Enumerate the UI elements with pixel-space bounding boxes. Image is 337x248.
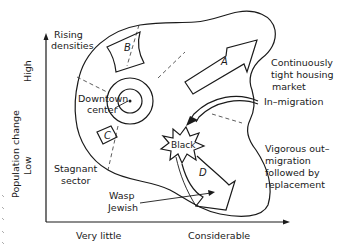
wasp-jewish-pointer xyxy=(140,193,211,203)
in-migration-label: In–migration xyxy=(264,96,323,107)
x-axis-high-label: Considerable xyxy=(188,230,250,241)
black-label: Black xyxy=(171,140,196,150)
sector-divider-northeast xyxy=(158,52,185,78)
sector-divider-west xyxy=(77,77,109,93)
y-axis-label: Population change xyxy=(10,110,21,198)
downtown-center-dot xyxy=(129,100,132,103)
tight-housing-label-1: Continuously xyxy=(271,57,333,68)
y-axis-high-label: High xyxy=(22,60,33,82)
wasp-label: Wasp xyxy=(109,190,135,201)
axes xyxy=(44,33,291,225)
urban-migration-diagram: Population change High Low Very little C… xyxy=(0,0,337,248)
region-d-label: D xyxy=(199,167,207,178)
rising-densities-label-2: densities xyxy=(51,40,94,51)
region-a-label: A xyxy=(220,56,228,67)
jewish-label: Jewish xyxy=(107,202,138,213)
vigorous-label-3: followed by xyxy=(265,167,320,178)
sector-divider-east xyxy=(212,114,242,123)
rising-densities-label-1: Rising xyxy=(54,29,83,40)
downtown-label-2: center xyxy=(87,104,118,115)
tight-housing-label-2: tight housing xyxy=(271,69,334,80)
y-axis-arrow-icon xyxy=(44,33,49,40)
y-axis-low-label: Low xyxy=(22,156,33,175)
region-d-arrow-left xyxy=(176,157,196,206)
tight-housing-label-3: market xyxy=(272,81,306,92)
region-a-arrow xyxy=(185,40,257,94)
region-c-label: C xyxy=(104,130,111,141)
x-axis-arrow-icon xyxy=(283,220,290,225)
region-b-label: B xyxy=(124,42,131,53)
vigorous-label-1: Vigorous out– xyxy=(265,143,330,154)
stagnant-sector-label-1: Stagnant xyxy=(54,163,97,174)
scan-artifacts xyxy=(2,195,4,244)
vigorous-label-2: migration xyxy=(265,155,311,166)
downtown-label-1: Downtown xyxy=(78,93,128,104)
wasp-jewish-arrowhead-icon xyxy=(208,190,215,196)
x-axis-low-label: Very little xyxy=(76,230,122,241)
vigorous-label-4: replacement xyxy=(265,179,325,190)
stagnant-sector-label-2: sector xyxy=(61,175,91,186)
